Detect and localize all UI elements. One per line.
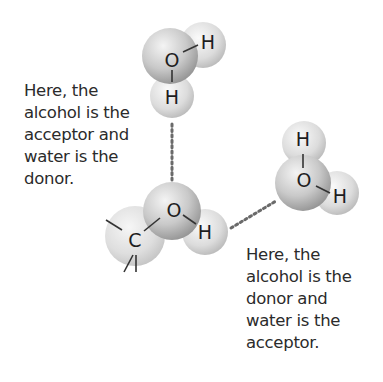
right-water-molecule: H O H [275, 121, 359, 215]
caption-left: Here, the alcohol is the acceptor and wa… [24, 80, 130, 190]
caption-line: water is the [246, 310, 352, 332]
alcohol-h-label: H [198, 221, 212, 243]
caption-line: Here, the [24, 80, 130, 102]
hydrogen-bond-diagonal [231, 201, 276, 228]
right-water-h-right-label: H [333, 185, 347, 207]
top-water-molecule: O H H [142, 22, 226, 118]
top-water-h-right-label: H [201, 31, 215, 53]
caption-line: acceptor. [246, 332, 352, 354]
alcohol-c-label: C [128, 229, 141, 251]
caption-line: Here, the [246, 244, 352, 266]
right-water-o-label: O [297, 169, 312, 191]
top-water-o-label: O [165, 49, 180, 71]
caption-line: acceptor and [24, 124, 130, 146]
alcohol-o-label: O [167, 199, 182, 221]
caption-line: water is the [24, 146, 130, 168]
top-water-h-bottom-label: H [165, 86, 179, 108]
caption-line: alcohol is the [24, 102, 130, 124]
caption-right: Here, the alcohol is the donor and water… [246, 244, 352, 354]
caption-line: donor and [246, 288, 352, 310]
alcohol-molecule: C O H [105, 182, 228, 272]
caption-line: donor. [24, 168, 130, 190]
caption-line: alcohol is the [246, 266, 352, 288]
right-water-h-top-label: H [296, 128, 310, 150]
